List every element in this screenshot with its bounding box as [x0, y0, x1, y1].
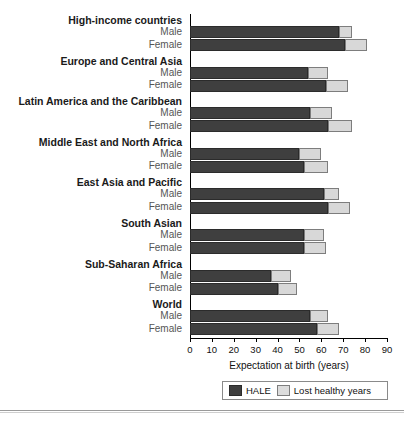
category-group-title: South Asian	[0, 217, 186, 229]
bar-segment-hale	[190, 161, 304, 173]
category-sub-label: Female	[0, 282, 186, 295]
category-sub-label: Female	[0, 120, 186, 133]
bar-row	[190, 120, 387, 132]
category-group-title: Sub-Saharan Africa	[0, 258, 186, 270]
x-axis-tick-label: 10	[207, 344, 218, 355]
footer-divider-secondary	[0, 412, 404, 413]
bar-row	[190, 107, 387, 119]
x-axis-tick-label: 80	[360, 344, 371, 355]
bar-segment-hale	[190, 283, 278, 295]
bar-segment-hale	[190, 270, 271, 282]
bar-row	[190, 310, 387, 322]
category-sub-label: Female	[0, 39, 186, 52]
bar-segment-hale	[190, 67, 308, 79]
bar-segment-hale	[190, 310, 310, 322]
x-axis-line	[190, 338, 388, 339]
footer-divider	[0, 410, 404, 411]
x-axis-tick	[365, 338, 366, 342]
category-sub-label: Male	[0, 188, 186, 201]
bar-row	[190, 39, 387, 51]
bar-segment-hale	[190, 188, 324, 200]
category-sub-label: Female	[0, 323, 186, 336]
bar-segment-lost	[328, 202, 350, 214]
category-group: Middle East and North AfricaMaleFemale	[0, 136, 186, 173]
x-axis-tick	[321, 338, 322, 342]
x-axis-tick	[212, 338, 213, 342]
bar-row	[190, 323, 387, 335]
category-group-title: High-income countries	[0, 14, 186, 26]
x-axis-tick	[299, 338, 300, 342]
x-axis-tick-label: 30	[250, 344, 261, 355]
x-axis-tick-label: 60	[316, 344, 327, 355]
category-sub-label: Female	[0, 242, 186, 255]
bar-segment-lost	[310, 310, 328, 322]
bar-segment-hale	[190, 120, 328, 132]
chart-container: High-income countriesMaleFemaleEurope an…	[0, 0, 404, 421]
category-sub-label: Female	[0, 201, 186, 214]
bar-segment-lost	[278, 283, 298, 295]
category-group: High-income countriesMaleFemale	[0, 14, 186, 51]
category-label-column: High-income countriesMaleFemaleEurope an…	[0, 14, 186, 338]
category-sub-label: Female	[0, 79, 186, 92]
category-sub-label: Male	[0, 67, 186, 80]
legend-swatch-lost-icon	[277, 385, 290, 396]
category-group: Sub-Saharan AfricaMaleFemale	[0, 258, 186, 295]
bar-segment-hale	[190, 107, 310, 119]
bar-segment-lost	[304, 229, 324, 241]
category-sub-label: Male	[0, 229, 186, 242]
bar-segment-lost	[328, 120, 352, 132]
category-group: Latin America and the CaribbeanMaleFemal…	[0, 95, 186, 132]
bar-segment-hale	[190, 148, 299, 160]
x-axis-tick-label: 0	[187, 344, 192, 355]
bar-segment-lost	[310, 107, 332, 119]
legend-swatch-hale-icon	[229, 385, 242, 396]
category-group-title: World	[0, 298, 186, 310]
category-group-title: East Asia and Pacific	[0, 176, 186, 188]
bar-row	[190, 26, 387, 38]
plot-area	[190, 14, 387, 338]
bar-row	[190, 188, 387, 200]
legend-label-lost: Lost healthy years	[294, 385, 371, 396]
bar-segment-lost	[304, 161, 328, 173]
bar-row	[190, 229, 387, 241]
x-axis-tick	[278, 338, 279, 342]
x-axis-tick	[234, 338, 235, 342]
x-axis-tick-label: 90	[382, 344, 393, 355]
bar-row	[190, 242, 387, 254]
category-sub-label: Male	[0, 270, 186, 283]
category-group: South AsianMaleFemale	[0, 217, 186, 254]
bar-row	[190, 270, 387, 282]
category-group: WorldMaleFemale	[0, 298, 186, 335]
category-sub-label: Male	[0, 148, 186, 161]
category-sub-label: Male	[0, 26, 186, 39]
category-sub-label: Male	[0, 107, 186, 120]
bar-row	[190, 283, 387, 295]
bar-segment-lost	[299, 148, 321, 160]
chart-legend: HALE Lost healthy years	[222, 381, 388, 400]
bar-segment-lost	[339, 26, 352, 38]
bar-row	[190, 148, 387, 160]
x-axis-tick-label: 50	[294, 344, 305, 355]
bar-segment-hale	[190, 202, 328, 214]
category-group-title: Middle East and North Africa	[0, 136, 186, 148]
bar-segment-hale	[190, 26, 339, 38]
x-axis-title: Expectation at birth (years)	[190, 360, 388, 371]
bar-segment-lost	[326, 80, 348, 92]
x-axis-tick	[256, 338, 257, 342]
x-axis-tick	[387, 338, 388, 342]
legend-item-lost: Lost healthy years	[277, 385, 371, 396]
bar-segment-lost	[271, 270, 291, 282]
legend-label-hale: HALE	[246, 385, 271, 396]
bar-segment-lost	[304, 242, 326, 254]
legend-item-hale: HALE	[229, 385, 271, 396]
bar-segment-lost	[324, 188, 339, 200]
x-axis-tick	[343, 338, 344, 342]
bar-row	[190, 161, 387, 173]
x-axis-tick-label: 70	[338, 344, 349, 355]
x-axis-tick-label: 40	[272, 344, 283, 355]
bar-segment-hale	[190, 80, 326, 92]
category-group-title: Latin America and the Caribbean	[0, 95, 186, 107]
category-group-title: Europe and Central Asia	[0, 55, 186, 67]
bar-segment-hale	[190, 242, 304, 254]
bar-segment-hale	[190, 229, 304, 241]
